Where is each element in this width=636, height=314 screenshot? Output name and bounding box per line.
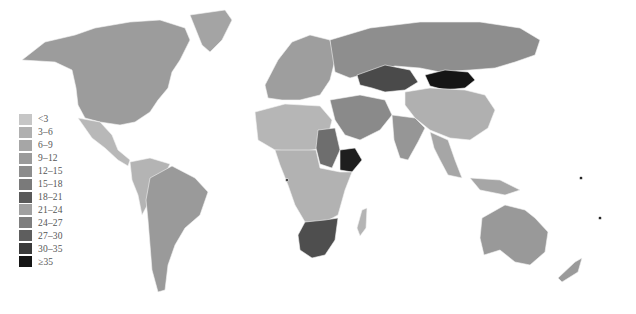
region-madagascar [357,208,367,236]
legend-swatch [19,166,32,177]
legend-swatch [19,153,32,164]
region-new-zealand [558,258,582,282]
legend-item: 18–21 [19,191,63,203]
region-ethiopia [340,148,362,172]
legend-item: 6–9 [19,139,63,151]
legend: <3 3–6 6–9 9–12 12–15 15–18 18–21 21–24 … [19,113,63,269]
legend-swatch [19,114,32,125]
region-australia [480,205,548,265]
legend-swatch [19,127,32,138]
region-mongolia [425,70,475,90]
legend-item: 15–18 [19,178,63,190]
region-europe [265,35,335,100]
region-russia [330,22,540,78]
region-middle-east [330,95,392,140]
region-southern-africa [298,218,338,258]
region-greenland [190,10,232,52]
region-mexico [78,118,130,166]
island-dot [598,216,601,219]
region-brazil-argentina [146,166,208,292]
legend-swatch [19,243,32,254]
legend-item: <3 [19,113,63,125]
legend-item: 24–27 [19,217,63,229]
island-dot [579,176,582,179]
region-north-america [22,20,190,125]
legend-item: 12–15 [19,165,63,177]
world-map [0,0,636,314]
legend-swatch [19,179,32,190]
region-sudan [316,128,340,168]
legend-swatch [19,217,32,228]
legend-swatch [19,192,32,203]
legend-item: 3–6 [19,126,63,138]
legend-item: 21–24 [19,204,63,216]
legend-item: 30–35 [19,243,63,255]
legend-item: ≥35 [19,256,63,268]
legend-item: 27–30 [19,230,63,242]
legend-swatch [19,230,32,241]
legend-swatch [19,256,32,267]
island-dot [285,178,288,181]
region-southeast-asia [430,132,520,195]
legend-swatch [19,140,32,151]
legend-item: 9–12 [19,152,63,164]
legend-swatch [19,204,32,215]
